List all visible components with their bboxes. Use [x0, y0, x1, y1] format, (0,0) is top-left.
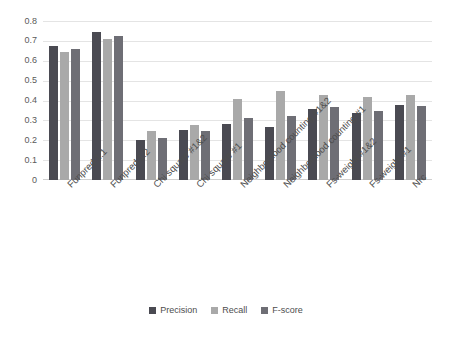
legend-swatch-icon: [261, 307, 268, 314]
x-tick-label: Nrc: [410, 182, 418, 190]
legend-label: F-score: [272, 306, 303, 315]
legend-swatch-icon: [149, 307, 156, 314]
bar-f-score: [71, 49, 80, 180]
y-tick-label: 0.1: [24, 156, 37, 165]
bar-precision: [395, 105, 404, 180]
bar-recall: [60, 52, 69, 180]
x-tick-label: Fs-weight #1: [367, 182, 375, 190]
x-tick-label: Funpred 1.2: [108, 182, 116, 190]
y-tick-label: 0.3: [24, 116, 37, 125]
y-tick-label: 0.2: [24, 136, 37, 145]
x-tick-label: Chi square #1&2: [151, 182, 159, 190]
legend-item-f-score[interactable]: F-score: [261, 306, 303, 315]
y-tick-label: 0.8: [24, 17, 37, 26]
chart-legend: PrecisionRecallF-score: [0, 306, 452, 315]
legend-item-precision[interactable]: Precision: [149, 306, 197, 315]
bar-recall: [406, 95, 415, 180]
bar-chart: 0.80.70.60.50.40.30.20.10 Funpred 1.1Fun…: [0, 0, 452, 342]
bar-f-score: [417, 106, 426, 180]
bar-f-score: [114, 36, 123, 180]
bar-precision: [49, 46, 58, 180]
legend-label: Recall: [222, 306, 247, 315]
y-tick-label: 0.7: [24, 36, 37, 45]
bar-group: [43, 21, 86, 180]
bar-recall: [233, 99, 242, 180]
x-tick-label: Neighborhood counting #1&2: [238, 182, 246, 190]
y-tick-label: 0: [32, 176, 37, 185]
legend-swatch-icon: [211, 307, 218, 314]
y-tick-label: 0.4: [24, 96, 37, 105]
x-tick-label: Fs-weight #1&2: [324, 182, 332, 190]
x-tick-label: Neighborhood counting #1: [281, 182, 289, 190]
legend-label: Precision: [160, 306, 197, 315]
y-axis: 0.80.70.60.50.40.30.20.10: [0, 0, 43, 190]
bar-recall: [103, 39, 112, 180]
x-tick-label: Funpred 1.1: [65, 182, 73, 190]
x-tick-label: Chi square #1: [194, 182, 202, 190]
y-tick-label: 0.5: [24, 76, 37, 85]
x-axis-labels: Funpred 1.1Funpred 1.2Chi square #1&2Chi…: [43, 182, 432, 302]
y-tick-label: 0.6: [24, 56, 37, 65]
legend-item-recall[interactable]: Recall: [211, 306, 247, 315]
